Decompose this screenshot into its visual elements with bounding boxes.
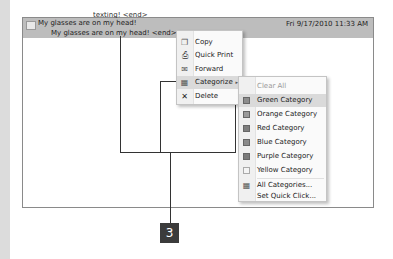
callout-line — [160, 81, 161, 153]
menu-item-label: Copy — [195, 36, 213, 49]
message-subject: My glasses are on my head! — [38, 19, 137, 27]
left-strip — [0, 0, 10, 259]
menu-item-green-category[interactable]: Green Category — [239, 94, 326, 107]
menu-item-label: Green Category — [257, 94, 312, 107]
category-swatch-icon — [243, 97, 250, 104]
menu-item-yellow-category[interactable]: Yellow Category — [239, 164, 326, 177]
envelope-icon — [26, 21, 36, 30]
callout-line — [120, 152, 236, 153]
menu-item-red-category[interactable]: Red Category — [239, 122, 326, 135]
menu-item-label: Set Quick Click... — [257, 190, 316, 203]
menu-item-label: Blue Category — [257, 136, 307, 149]
message-preview: My glasses are on my head! <end> — [51, 29, 177, 37]
menu-item-label: Delete — [195, 90, 218, 103]
callout-line — [235, 99, 236, 153]
category-swatch-icon — [243, 111, 250, 118]
category-swatch-icon — [243, 167, 250, 174]
menu-item-copy[interactable]: ❐ Copy — [177, 36, 242, 49]
category-swatch-icon — [243, 153, 250, 160]
menu-item-label: Quick Print — [195, 49, 233, 62]
delete-icon: ✕ — [180, 92, 189, 101]
menu-item-label: Forward — [195, 63, 223, 76]
menu-item-purple-category[interactable]: Purple Category — [239, 150, 326, 163]
menu-item-clear-all-categories[interactable]: Clear All Categories — [239, 80, 326, 93]
menu-item-set-quick-click[interactable]: Set Quick Click... — [239, 190, 326, 203]
menu-item-label: Categorize — [195, 76, 233, 89]
message-date: Fri 9/17/2010 11:33 AM — [286, 20, 368, 28]
menu-item-quick-print[interactable]: ⎙ Quick Print — [177, 49, 242, 62]
print-icon: ⎙ — [180, 51, 189, 60]
menu-item-label: Purple Category — [257, 150, 313, 163]
menu-item-forward[interactable]: ✉ Forward — [177, 63, 242, 76]
context-menu: ❐ Copy ⎙ Quick Print ✉ Forward ▦ Categor… — [176, 30, 243, 105]
menu-item-delete[interactable]: ✕ Delete — [177, 90, 242, 103]
menu-item-label: Orange Category — [257, 108, 317, 121]
forward-icon: ✉ — [180, 65, 189, 74]
categorize-submenu: Clear All Categories Green Category Oran… — [238, 76, 327, 202]
menu-item-categorize[interactable]: ▦ Categorize ▸ — [177, 76, 242, 89]
categorize-icon: ▦ — [180, 78, 189, 87]
menu-item-label: Red Category — [257, 122, 305, 135]
menu-item-label: Yellow Category — [257, 164, 313, 177]
callout-line — [170, 152, 171, 223]
menu-item-blue-category[interactable]: Blue Category — [239, 136, 326, 149]
callout-line — [120, 36, 121, 153]
copy-icon: ❐ — [180, 38, 189, 47]
category-swatch-icon — [243, 125, 250, 132]
category-swatch-icon — [243, 139, 250, 146]
menu-item-orange-category[interactable]: Orange Category — [239, 108, 326, 121]
callout-number-badge: 3 — [160, 223, 179, 243]
categories-icon: ▦ — [242, 181, 251, 190]
